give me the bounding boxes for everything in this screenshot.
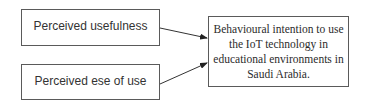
node-label: Perceived ese of use <box>34 74 146 88</box>
arrow-usefulness-to-intention <box>160 28 207 38</box>
node-behavioural-intention: Behavioural intention to use the IoT tec… <box>208 16 349 87</box>
node-label: Behavioural intention to use the IoT tec… <box>213 22 344 82</box>
arrow-ease-of-use-to-intention <box>160 63 207 84</box>
node-label: Perceived usefulness <box>33 19 147 33</box>
node-perceived-usefulness: Perceived usefulness <box>21 9 160 46</box>
node-perceived-ease-of-use: Perceived ese of use <box>21 64 160 100</box>
